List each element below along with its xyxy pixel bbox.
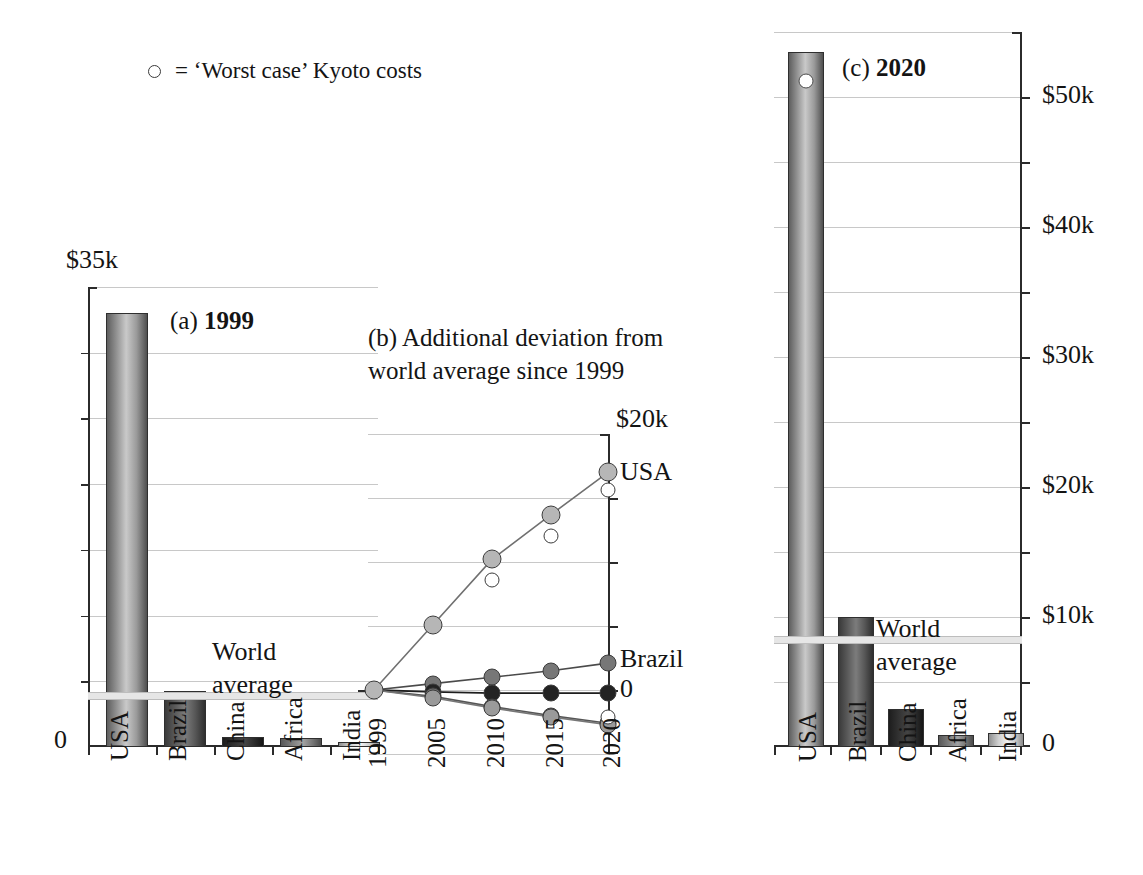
y-tick [81,353,89,355]
panel-c-axis-label-10k: $10k [1042,600,1094,630]
y-tick-50k [1021,97,1030,99]
worst-case-usa-2010 [485,572,500,587]
gridline [88,287,378,288]
point-usa-2015 [542,505,561,524]
panel-a-cat-china: China [222,701,250,761]
y-tick [609,626,618,628]
panel-c-cat-brazil: Brazil [844,701,872,762]
panel-b-x-1999: 1999 [364,718,392,768]
y-tick-20k [1021,487,1030,489]
y-tick-40k [1021,227,1030,229]
panel-c-axis-label-20k: $20k [1042,470,1094,500]
panel-b-title: (b) Additional deviation from world aver… [368,322,663,387]
y-tick-30k [1021,357,1030,359]
x-tick [830,746,832,755]
panel-a-cat-usa: USA [106,711,134,761]
panel-a-axis-zero-label: 0 [54,725,67,755]
x-tick [330,746,332,755]
point-india-2005 [425,689,442,706]
world-average-line1: World [876,612,957,645]
panel-c-cat-africa: Africa [944,698,972,762]
panel-c-cat-china: China [894,702,922,762]
panel-a-axis-max-label: $35k [66,245,118,275]
point-usa-2010 [483,550,502,569]
x-tick [774,746,776,755]
y-tick [81,418,89,420]
legend-label: = ‘Worst case’ Kyoto costs [175,58,422,84]
panel-b-series-label-usa: USA [620,457,672,487]
point-india-2010 [484,699,501,716]
figure-canvas: = ‘Worst case’ Kyoto costs $35k (a) 1999 [0,0,1143,875]
panel-a-cat-africa: Africa [280,697,308,761]
panel-c-axis-label-30k: $30k [1042,340,1094,370]
y-tick [1021,552,1030,554]
point-china-2015 [543,685,560,702]
panel-b-axis-max-label: $20k [616,404,668,434]
x-tick [880,746,882,755]
panel-b-x-2010: 2010 [482,718,510,768]
panel-a-axis-top-cap [88,287,97,289]
y-tick [81,550,89,552]
y-tick [81,616,89,618]
point-brazil-2015 [543,662,560,679]
y-tick [81,681,89,683]
panel-c-axis-label-40k: $40k [1042,210,1094,240]
panel-b-plot-area [368,434,610,754]
point-usa-2020 [599,463,618,482]
y-tick [609,498,618,500]
panel-b-title-line1: (b) Additional deviation from [368,322,663,355]
panel-c-2020: (c) 2020 [770,22,1140,812]
x-tick [88,746,90,755]
panel-a-cat-india: India [338,710,366,761]
panel-c-axis-label-0: 0 [1042,728,1055,758]
world-average-line2: average [876,645,957,678]
gridline [774,32,1022,33]
panel-b-series-label-brazil: Brazil [620,644,684,674]
panel-c-cat-india: India [994,711,1022,762]
panel-a-y-axis [88,287,90,747]
panel-b-title-line2: world average since 1999 [368,355,663,388]
y-tick [81,484,89,486]
point-china-2020 [600,685,617,702]
worst-case-marker-usa [799,74,814,89]
panel-c-world-average-label: World average [876,612,957,679]
panel-a-world-average-label: World average [212,635,293,702]
panel-a-1999: $35k (a) 1999 [78,245,378,805]
panel-b-deviation: (b) Additional deviation from world aver… [368,322,698,812]
worst-case-circle-icon [148,65,161,78]
point-brazil-2010 [484,669,501,686]
x-tick [980,746,982,755]
panel-c-axis-label-50k: $50k [1042,80,1094,110]
point-brazil-2020 [600,655,617,672]
panel-a-cat-brazil: Brazil [164,700,192,761]
x-tick [930,746,932,755]
worst-case-usa-2015 [544,529,559,544]
y-tick [1021,422,1030,424]
panel-c-cat-usa: USA [794,712,822,762]
panel-b-axis-zero-label: 0 [620,674,633,704]
point-usa-2005 [424,615,443,634]
legend: = ‘Worst case’ Kyoto costs [148,58,422,84]
world-average-line1: World [212,635,293,668]
y-tick-10k [1021,617,1030,619]
point-usa-1999 [365,681,384,700]
panel-b-x-2020: 2020 [598,718,626,768]
y-tick [609,562,618,564]
y-tick [1021,162,1030,164]
panel-c-axis-top-cap [1012,32,1022,34]
y-tick [1021,682,1030,684]
x-tick [156,746,158,755]
x-tick [214,746,216,755]
bar-usa [106,313,148,747]
panel-b-x-2015: 2015 [541,718,569,768]
worst-case-usa-2020 [601,483,616,498]
panel-b-x-2005: 2005 [423,718,451,768]
y-tick [1021,292,1030,294]
x-tick [272,746,274,755]
